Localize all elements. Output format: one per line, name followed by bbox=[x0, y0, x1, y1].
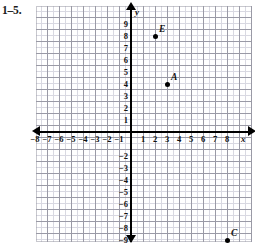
y-tick-label: −9 bbox=[114, 236, 128, 245]
y-axis-name: y bbox=[135, 8, 139, 17]
plotted-point-dot bbox=[225, 238, 230, 243]
plotted-point-dot bbox=[153, 34, 158, 39]
y-tick-label: 9 bbox=[114, 20, 128, 29]
coordinate-grid: x y −8−7−6−5−4−3−2−112345678 987654321−2… bbox=[36, 6, 252, 242]
x-axis-name: x bbox=[241, 135, 246, 144]
y-axis-line bbox=[130, 6, 132, 242]
exercise-number-label: 1–5. bbox=[2, 4, 21, 16]
y-tick-label: −5 bbox=[114, 188, 128, 197]
y-tick-label: −2 bbox=[114, 152, 128, 161]
plotted-point-dot bbox=[165, 82, 170, 87]
y-tick-label: −3 bbox=[114, 164, 128, 173]
y-tick-label: −7 bbox=[114, 212, 128, 221]
x-axis-line bbox=[36, 131, 252, 133]
x-tick-label: −1 bbox=[112, 135, 126, 144]
x-tick-label: 8 bbox=[220, 135, 234, 144]
x-axis-arrow-right-icon bbox=[248, 126, 255, 136]
y-tick-label: 6 bbox=[114, 56, 128, 65]
y-tick-label: 8 bbox=[114, 32, 128, 41]
y-tick-label: 4 bbox=[114, 80, 128, 89]
y-tick-label: −8 bbox=[114, 224, 128, 233]
y-tick-label: −6 bbox=[114, 200, 128, 209]
y-tick-label: 3 bbox=[114, 92, 128, 101]
y-tick-label: −4 bbox=[114, 176, 128, 185]
y-tick-label: 1 bbox=[114, 116, 128, 125]
y-tick-label: 5 bbox=[114, 68, 128, 77]
y-tick-label: 7 bbox=[114, 44, 128, 53]
y-tick-label: 2 bbox=[114, 104, 128, 113]
plotted-point-label: A bbox=[171, 73, 177, 83]
plotted-point-label: C bbox=[231, 229, 237, 239]
plotted-point-label: E bbox=[159, 25, 165, 35]
